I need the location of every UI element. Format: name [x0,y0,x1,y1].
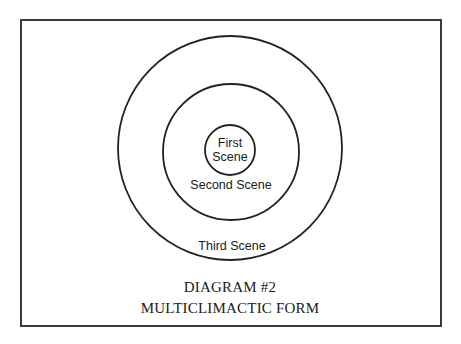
third-scene-label: Third Scene [198,239,265,253]
caption-line1: DIAGRAM #2 [184,279,276,295]
second-scene-label: Second Scene [190,178,271,192]
concentric-diagram: First Scene Second Scene Third Scene DIA… [0,0,461,344]
first-scene-label-line1: First [218,136,243,150]
first-scene-label-line2: Scene [212,150,247,164]
caption-line2: MULTICLIMACTIC FORM [141,300,320,316]
